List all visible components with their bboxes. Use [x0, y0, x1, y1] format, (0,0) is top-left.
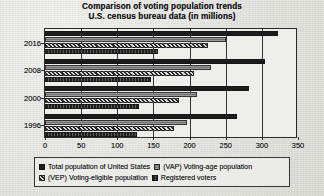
legend-label: Total population of United States	[48, 163, 150, 171]
bar-voting_age_population-2000	[45, 92, 197, 97]
legend-swatch-icon	[154, 164, 160, 170]
bar-total_population-2016	[45, 31, 278, 36]
bar-registered_voters-1996	[45, 132, 137, 137]
y-axis-label-1996: 1996	[24, 121, 41, 130]
legend-swatch-icon	[39, 164, 45, 170]
x-axis-label: 350	[292, 141, 304, 150]
legend-item-voting_age_population[interactable]: (VAP) Voting-age population	[154, 163, 252, 171]
bar-voting_age_population-2008	[45, 65, 211, 70]
bar-voting_eligible_population-2008	[45, 71, 194, 76]
legend-swatch-icon	[39, 175, 45, 181]
y-axis-label-2000: 2000	[24, 93, 41, 102]
bar-total_population-1996	[45, 114, 237, 119]
bar-registered_voters-2016	[45, 49, 158, 54]
x-axis-label: 0	[43, 141, 47, 150]
bar-group	[45, 112, 296, 140]
x-axis-label: 100	[111, 141, 123, 150]
x-axis-tick	[298, 137, 299, 140]
plot-area: 0501001502002503003502016200820001996	[44, 28, 297, 138]
bar-group	[45, 57, 296, 85]
x-axis-label: 250	[220, 141, 232, 150]
chart-figure: Comparison of voting population trends U…	[0, 0, 324, 196]
legend-label: (VEP) Voting-eligible population	[48, 174, 148, 182]
bar-voting_age_population-2016	[45, 37, 226, 42]
x-axis-label: 150	[147, 141, 159, 150]
legend-row: (VEP) Voting-eligible populationRegister…	[39, 172, 285, 183]
bar-voting_age_population-1996	[45, 120, 187, 125]
bar-registered_voters-2000	[45, 104, 139, 109]
y-axis-label-2016: 2016	[24, 38, 41, 47]
legend-item-voting_eligible_population[interactable]: (VEP) Voting-eligible population	[39, 174, 148, 182]
bar-total_population-2008	[45, 59, 265, 64]
chart-title-line-2: U.S. census bureau data (in millions)	[0, 12, 324, 22]
chart-legend: Total population of United States(VAP) V…	[34, 157, 290, 187]
bar-voting_eligible_population-2016	[45, 43, 208, 48]
legend-row: Total population of United States(VAP) V…	[39, 161, 285, 172]
chart-title-line-1: Comparison of voting population trends	[0, 2, 324, 12]
legend-label: Registered voters	[161, 174, 217, 182]
chart-title: Comparison of voting population trends U…	[0, 2, 324, 22]
bar-total_population-2000	[45, 86, 249, 91]
x-axis-label: 200	[183, 141, 195, 150]
y-axis-label-2008: 2008	[24, 66, 41, 75]
bar-voting_eligible_population-1996	[45, 126, 174, 131]
legend-label: (VAP) Voting-age population	[163, 163, 252, 171]
x-axis-label: 300	[256, 141, 268, 150]
legend-swatch-icon	[152, 175, 158, 181]
bar-registered_voters-2008	[45, 77, 151, 82]
bar-group	[45, 84, 296, 112]
bar-voting_eligible_population-2000	[45, 98, 179, 103]
legend-item-total_population[interactable]: Total population of United States	[39, 163, 150, 171]
legend-item-registered_voters[interactable]: Registered voters	[152, 174, 217, 182]
bar-group	[45, 29, 296, 57]
x-axis-label: 50	[77, 141, 85, 150]
